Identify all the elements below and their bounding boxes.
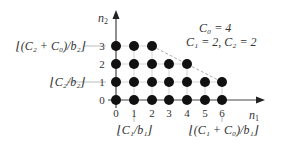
x-tick-6: 6: [216, 108, 228, 119]
y-axis-arrow-icon: [113, 10, 120, 19]
y-tick-3: 3: [96, 41, 108, 52]
y-tick-2: 2: [96, 59, 108, 70]
grid-lines: [116, 46, 222, 100]
x-annotation-right: ⌊(C₁ + C₀)/b₁⌋: [189, 124, 258, 136]
y-annotation-upper: ⌊(C₂ + C₀)/b₂⌋: [16, 40, 85, 52]
x-tick-3: 3: [163, 108, 175, 119]
x-tick-0: 0: [110, 108, 122, 119]
parameter-c1-c2: C₁ = 2, C₂ = 2: [186, 36, 257, 48]
y-axis-label: n2: [98, 12, 108, 28]
y-annotation-lower: ⌊C₂/b₂⌋: [50, 76, 85, 88]
x-tick-2: 2: [146, 108, 158, 119]
x-tick-4: 4: [181, 108, 193, 119]
x-tick-1: 1: [128, 108, 140, 119]
y-tick-0: 0: [96, 95, 108, 106]
x-tick-5: 5: [199, 108, 211, 119]
x-axis-arrow-icon: [256, 97, 265, 104]
x-annotation-left: ⌊C₁/b₁⌋: [117, 124, 152, 136]
parameter-c0: C₀ = 4: [199, 22, 231, 34]
y-tick-1: 1: [96, 77, 108, 88]
